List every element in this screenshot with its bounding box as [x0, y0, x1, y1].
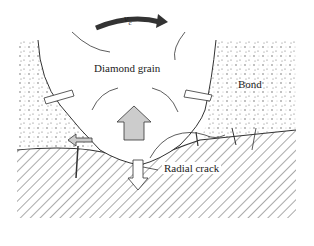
grinding-diagram: [0, 0, 314, 246]
diamond-grain-label: Diamond grain: [94, 62, 160, 74]
bond-label: Bond: [238, 78, 262, 90]
radial-crack-label: Radial crack: [162, 162, 221, 174]
velocity-label: vc: [124, 13, 132, 27]
